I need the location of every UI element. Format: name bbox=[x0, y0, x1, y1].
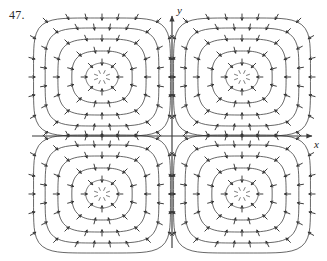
field-arrow-shaft bbox=[106, 79, 109, 80]
field-arrow-shaft bbox=[104, 188, 105, 191]
field-arrow-shaft bbox=[246, 191, 249, 192]
field-arrow-shaft bbox=[104, 71, 105, 74]
field-arrow-shaft bbox=[246, 196, 249, 197]
field-arrow-shaft bbox=[239, 188, 240, 191]
field-arrow-shaft bbox=[99, 188, 100, 191]
field-arrow-shaft bbox=[99, 198, 100, 201]
field-arrow-shaft bbox=[244, 81, 245, 84]
field-arrow-shaft bbox=[235, 196, 238, 197]
field-arrow-shaft bbox=[246, 79, 249, 80]
field-arrow-shaft bbox=[99, 71, 100, 74]
field-arrow-shaft bbox=[246, 74, 249, 75]
field-arrow-shaft bbox=[239, 71, 240, 74]
field-arrow-shaft bbox=[244, 198, 245, 201]
field-arrow-shaft bbox=[235, 74, 238, 75]
field-arrow-shaft bbox=[235, 191, 238, 192]
field-arrow-shaft bbox=[106, 191, 109, 192]
field-arrow-shaft bbox=[106, 74, 109, 75]
contour-curve bbox=[185, 145, 299, 243]
contour-curve bbox=[185, 28, 299, 126]
field-arrow-shaft bbox=[95, 191, 98, 192]
field-arrow-shaft bbox=[235, 79, 238, 80]
figure-container: 47. x y bbox=[0, 0, 327, 261]
field-arrow-shaft bbox=[95, 196, 98, 197]
x-axis-label: x bbox=[313, 138, 319, 150]
contour-curve bbox=[45, 145, 159, 243]
field-arrow-shaft bbox=[244, 188, 245, 191]
field-arrow-shaft bbox=[99, 81, 100, 84]
contour-curve bbox=[58, 156, 146, 232]
field-arrow-shaft bbox=[95, 74, 98, 75]
field-arrow-shaft bbox=[106, 196, 109, 197]
contour-curve bbox=[45, 28, 159, 126]
direction-field-plot: x y bbox=[0, 0, 327, 261]
field-arrow-shaft bbox=[239, 198, 240, 201]
contour-curve bbox=[198, 39, 286, 115]
contour-curve bbox=[58, 39, 146, 115]
field-arrow-shaft bbox=[104, 198, 105, 201]
field-arrow-shaft bbox=[239, 81, 240, 84]
field-arrow-shaft bbox=[104, 81, 105, 84]
y-axis-label: y bbox=[176, 4, 182, 16]
contour-curve bbox=[198, 156, 286, 232]
field-arrow-shaft bbox=[95, 79, 98, 80]
field-arrow-shaft bbox=[244, 71, 245, 74]
